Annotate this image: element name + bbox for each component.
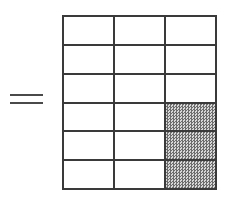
grid-cell[interactable] — [166, 17, 215, 44]
equals-bar-bottom — [10, 102, 43, 104]
grid-cell[interactable] — [166, 104, 215, 131]
grid-cell[interactable] — [166, 75, 215, 102]
grid-cell[interactable] — [64, 161, 113, 188]
grid-cell[interactable] — [166, 161, 215, 188]
equals-sign-icon — [10, 93, 43, 107]
grid-cell[interactable] — [115, 75, 164, 102]
grid-cell[interactable] — [64, 132, 113, 159]
equals-bar-top — [10, 94, 43, 96]
grid-cell[interactable] — [115, 161, 164, 188]
grid-cell[interactable] — [166, 132, 215, 159]
grid-cell[interactable] — [115, 17, 164, 44]
grid-cell[interactable] — [166, 46, 215, 73]
grid-cell[interactable] — [115, 104, 164, 131]
grid-cell[interactable] — [64, 104, 113, 131]
grid-cell[interactable] — [64, 75, 113, 102]
grid-cell[interactable] — [64, 17, 113, 44]
grid-cell[interactable] — [115, 46, 164, 73]
grid-cell[interactable] — [115, 132, 164, 159]
grid-cell[interactable] — [64, 46, 113, 73]
fraction-grid — [62, 15, 217, 190]
figure-canvas — [0, 0, 238, 197]
